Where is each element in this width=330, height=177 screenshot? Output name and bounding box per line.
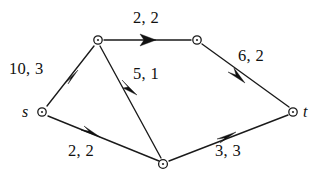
edge-v2-t-arrowhead (228, 68, 245, 83)
edge-v1-v2 (104, 34, 191, 46)
edge-s-v1-line (47, 46, 94, 106)
node-v1[interactable] (94, 36, 102, 44)
node-label-s: s (22, 104, 28, 120)
edge-s-v3-arrowhead (81, 126, 100, 137)
edge-label-s-v1: 10, 3 (9, 61, 44, 78)
edge-label-v1-v3: 5, 1 (133, 66, 159, 83)
edge-s-v1 (47, 46, 94, 106)
node-v2[interactable] (193, 36, 201, 44)
node-v3[interactable] (159, 160, 168, 169)
node-v2-dot (196, 39, 198, 41)
node-t-dot (292, 111, 294, 113)
edge-s-v1-arrowhead (64, 70, 78, 84)
node-s-dot (41, 111, 43, 113)
edge-label-v3-t: 3, 3 (215, 143, 241, 160)
node-v1-dot (97, 39, 99, 41)
edge-label-s-v3: 2, 2 (68, 143, 94, 160)
node-t[interactable] (289, 108, 297, 116)
graph-canvas (0, 0, 330, 177)
node-v3-dot (162, 163, 164, 165)
node-label-t: t (303, 104, 307, 120)
flow-network-diagram: 10, 3 2, 2 5, 1 6, 2 2, 2 3, 3 s t (0, 0, 330, 177)
edge-label-v1-v2: 2, 2 (133, 10, 159, 27)
node-s[interactable] (38, 108, 46, 116)
edge-label-v2-t: 6, 2 (238, 48, 264, 65)
